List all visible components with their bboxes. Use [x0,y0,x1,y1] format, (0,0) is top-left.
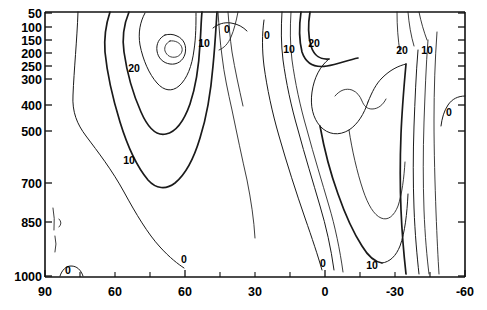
y-tick-label: 100 [21,21,42,35]
y-tick-label: 50 [28,7,42,21]
y-axis-labels: 50 100 150 200 250 300 400 500 700 850 1… [14,7,42,284]
contour-label: 20 [128,62,140,74]
contour-label: 0 [264,29,270,41]
y-tick-label: 150 [21,34,42,48]
contour-plot-canvas: 50 100 150 200 250 300 400 500 700 850 1… [0,0,487,310]
contour-label: 0 [181,253,187,265]
contour-strand-far-south-e [419,12,427,40]
y-axis-ticks [45,13,52,276]
x-tick-label: -60 [456,285,474,299]
x-tick-label: -30 [386,285,404,299]
contour-label: 0 [224,23,230,35]
contour-strand-south-a [290,12,343,272]
y-tick-label: 250 [21,60,42,74]
contour-label: 0 [320,257,326,269]
x-axis-labels: 90 60 30 0 -30 -60 60 [38,285,474,299]
contour-label: 20 [308,37,320,49]
x-tick-label: 60 [178,285,192,299]
y-tick-label: 1000 [14,270,42,284]
y-tick-label: 400 [21,99,42,113]
contour-label: 10 [366,259,378,271]
contour-level-10-far-south [413,50,419,274]
contour-level-20-south-flank [309,12,329,59]
contour-label: 10 [283,43,295,55]
x-tick-label: 30 [248,285,262,299]
contour-level-0-top-north [213,23,247,31]
y-tick-label: 500 [21,125,42,139]
y-tick-label: 850 [21,216,42,230]
y-tick-label: 700 [21,177,42,191]
contour-strand-far-south-b [434,32,439,274]
contour-strand-north-a [218,12,255,238]
x-tick-label: 0 [322,285,329,299]
contour-level-0-far-south [441,96,465,126]
y-axis-ticks-right [458,13,465,276]
contour-group-northern-jet [60,12,255,276]
contour-level-40-north [157,34,186,64]
contour-level-40-inner-north [165,41,182,57]
contour-label: 10 [123,154,135,166]
y-tick-label: 200 [21,47,42,61]
contour-level-30-north [139,13,196,90]
contour-label: 10 [198,37,210,49]
contour-plot-figure: 50 100 150 200 250 300 400 500 700 850 1… [0,0,487,310]
contour-lobe-south-bump [335,89,386,109]
x-tick-label-60: 60 [108,285,122,299]
contour-lobe-south-inner-2 [368,64,406,102]
contour-label: 0 [446,106,452,118]
x-axis-ticks [45,270,465,277]
contour-strand-far-south-d [408,12,414,46]
x-tick-label: 90 [38,285,52,299]
contour-labels: 0 10 20 10 0 0 0 10 20 20 10 0 0 10 [65,23,452,276]
contour-label: 20 [396,44,408,56]
contour-level-0-south [263,20,323,270]
contour-label: 10 [421,44,433,56]
contour-label: 0 [65,264,71,276]
y-tick-label: 300 [21,73,42,87]
contour-level-0-north [73,12,184,268]
scan-artifact-marks [53,208,61,252]
contour-strand-far-south-a [423,40,429,274]
contour-valley-strand-south [349,130,405,219]
